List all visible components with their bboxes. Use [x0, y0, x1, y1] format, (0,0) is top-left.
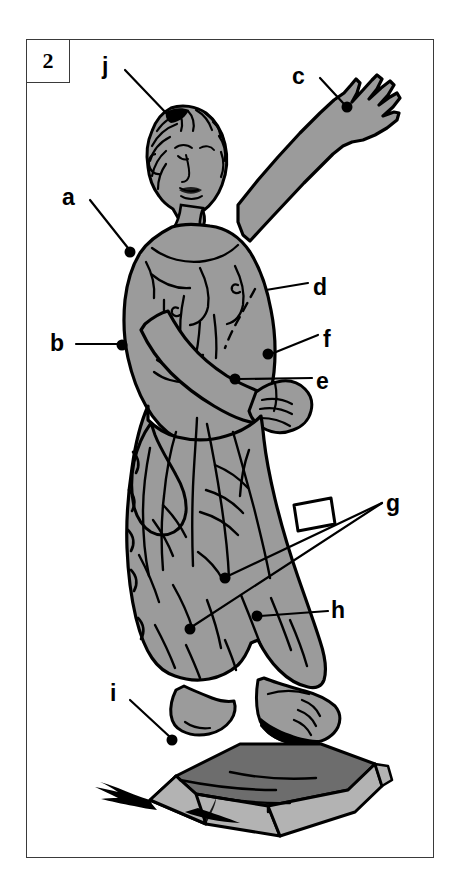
- label-g[interactable]: g: [386, 492, 400, 515]
- label-c[interactable]: c: [292, 65, 305, 88]
- label-e[interactable]: e: [316, 370, 329, 393]
- label-h[interactable]: h: [331, 599, 345, 622]
- label-a[interactable]: a: [62, 186, 75, 209]
- figure-number-box: 2: [26, 39, 70, 83]
- label-j[interactable]: j: [102, 55, 108, 78]
- label-d[interactable]: d: [313, 276, 327, 299]
- label-f[interactable]: f: [323, 328, 331, 351]
- figure-frame: [26, 39, 434, 858]
- label-i[interactable]: i: [110, 682, 116, 705]
- figure-root: 2: [0, 0, 453, 882]
- label-b[interactable]: b: [50, 332, 64, 355]
- figure-number: 2: [43, 48, 54, 74]
